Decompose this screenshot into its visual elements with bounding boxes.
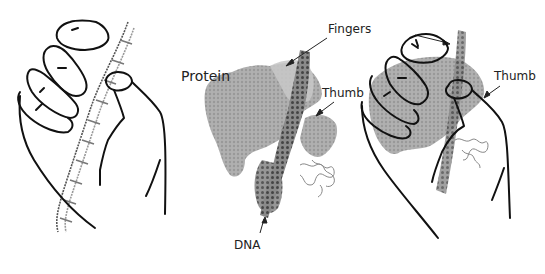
right-panel [362,30,511,238]
diagram-canvas [0,0,545,274]
label-thumb-middle: Thumb [322,86,364,100]
hand-outline-icon [18,21,165,229]
polypeptide-ribbon-icon [300,160,334,197]
polypeptide-ribbon-right-icon [455,139,488,168]
label-dna: DNA [234,238,260,252]
label-thumb-right: Thumb [494,69,536,83]
label-fingers: Fingers [328,22,371,36]
label-protein: Protein [181,68,230,84]
protein-overlay-icon [369,30,484,194]
left-panel [18,21,165,233]
